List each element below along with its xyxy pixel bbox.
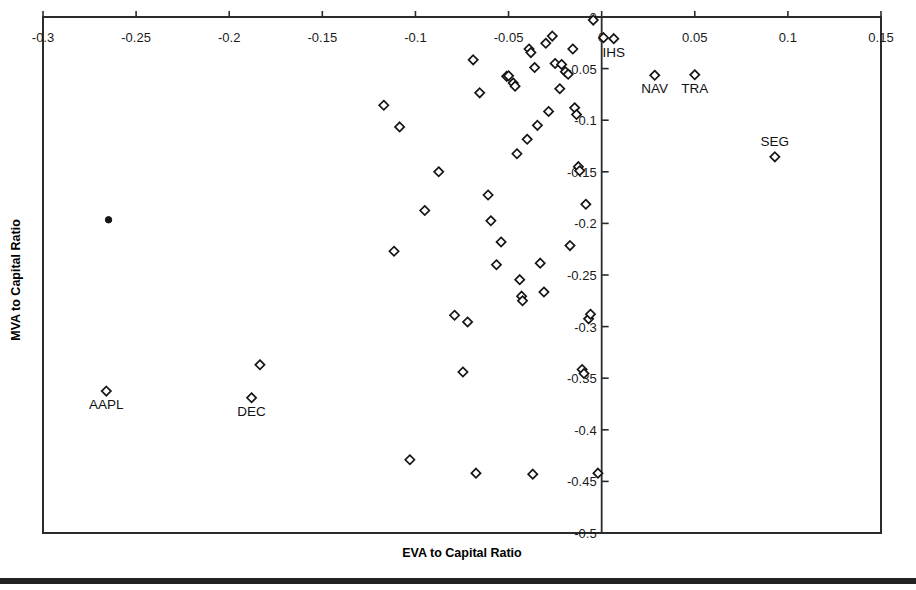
data-point: [255, 360, 264, 369]
data-point: [536, 259, 545, 268]
data-point: [450, 311, 459, 320]
plot-frame: [43, 17, 881, 533]
x-tick-label: -0.15: [308, 30, 338, 45]
x-tick-label: -0.05: [494, 30, 524, 45]
data-points: [102, 15, 780, 478]
plot-frame-rect: [43, 17, 881, 533]
data-point: [555, 84, 564, 93]
data-point: [515, 275, 524, 284]
data-point: [469, 55, 478, 64]
y-tick-label: -0.2: [574, 216, 596, 231]
data-point: [471, 469, 480, 478]
data-point: [512, 149, 521, 158]
data-point: [458, 367, 467, 376]
y-tick-label: -0.45: [567, 474, 597, 489]
data-point: [247, 393, 256, 402]
data-point: [609, 34, 618, 43]
x-tick-labels: -0.3-0.25-0.2-0.15-0.1-0.0500.050.10.15: [32, 30, 894, 45]
data-point: [105, 217, 111, 223]
data-point: [420, 206, 429, 215]
bottom-rule: [0, 578, 916, 584]
data-point: [395, 122, 404, 131]
data-point-label: SEG: [761, 134, 790, 149]
y-tick-labels: 0-0.05-0.1-0.15-0.2-0.25-0.3-0.35-0.4-0.…: [567, 10, 597, 541]
data-point: [483, 190, 492, 199]
data-point: [102, 387, 111, 396]
data-point: [379, 101, 388, 110]
data-point: [475, 88, 484, 97]
data-point: [405, 455, 414, 464]
x-tick-label: -0.2: [218, 30, 240, 45]
y-tick-label: -0.25: [567, 268, 597, 283]
data-point: [533, 121, 542, 130]
data-point: [565, 241, 574, 250]
data-point-label: DEC: [237, 404, 266, 419]
y-tick-label: -0.3: [574, 320, 596, 335]
data-point-label: AAPL: [89, 397, 124, 412]
data-point: [389, 247, 398, 256]
data-point-label: IHS: [603, 45, 626, 60]
x-tick-label: 0.15: [868, 30, 893, 45]
data-point-label: NAV: [641, 81, 668, 96]
x-tick-label: 0.05: [682, 30, 707, 45]
y-axis-title: MVA to Capital Ratio: [9, 219, 23, 341]
x-tick-label: -0.1: [404, 30, 426, 45]
data-point: [548, 31, 557, 40]
data-point: [463, 317, 472, 326]
x-tick-label: -0.3: [32, 30, 54, 45]
data-point: [486, 216, 495, 225]
tick-marks: [43, 11, 881, 533]
data-point: [650, 71, 659, 80]
scatter-chart: -0.3-0.25-0.2-0.15-0.1-0.0500.050.10.15 …: [0, 0, 916, 590]
data-point: [539, 287, 548, 296]
data-point: [497, 237, 506, 246]
x-tick-label: -0.25: [121, 30, 151, 45]
data-point: [541, 39, 550, 48]
data-point: [690, 70, 699, 79]
data-point: [492, 260, 501, 269]
data-point: [434, 167, 443, 176]
plot-canvas: -0.3-0.25-0.2-0.15-0.1-0.0500.050.10.15 …: [0, 0, 916, 590]
data-point: [581, 200, 590, 209]
data-point-labels: AAPLDECIHSNAVTRASEG: [89, 45, 789, 419]
data-point-label: TRA: [681, 81, 708, 96]
x-axis-title: EVA to Capital Ratio: [402, 546, 522, 560]
y-tick-label: -0.4: [574, 423, 596, 438]
x-tick-label: 0.1: [779, 30, 797, 45]
data-point: [523, 135, 532, 144]
y-tick-label: -0.5: [574, 526, 596, 541]
data-point: [528, 470, 537, 479]
data-point: [544, 107, 553, 116]
data-point: [568, 44, 577, 53]
data-point: [770, 152, 779, 161]
data-point: [530, 63, 539, 72]
